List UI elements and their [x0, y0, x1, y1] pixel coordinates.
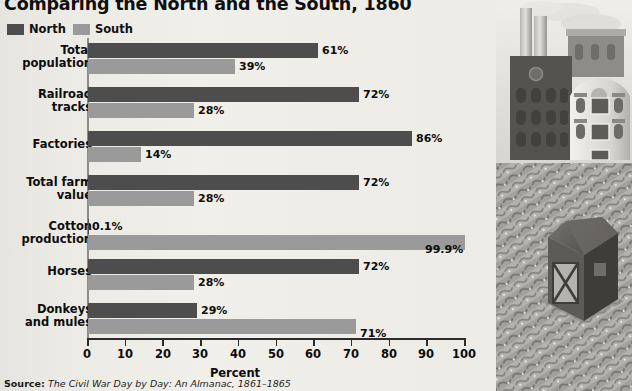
source-title: The Civil War Day by Day: An Almanac, 18…: [48, 378, 291, 389]
x-tick-60: [313, 340, 315, 346]
chart-figure: Comparing the North and the South, 1860 …: [0, 0, 632, 391]
category-label-line: population: [0, 57, 92, 70]
category-label-railroad-tracks: Railroad tracks: [0, 88, 92, 113]
bar-south-horses: [88, 275, 194, 290]
category-label-total-population: Total population: [0, 44, 92, 69]
bar-north-factories: [88, 131, 412, 146]
chart-legend: North South: [7, 22, 133, 36]
bar-north-total-population: [88, 43, 318, 58]
bar-value-north-horses: 72%: [363, 260, 389, 273]
x-tick-50: [276, 340, 278, 346]
source-note: Source: The Civil War Day by Day: An Alm…: [4, 378, 291, 389]
bar-north-horses: [88, 259, 359, 274]
x-tick-label-60: 60: [305, 347, 321, 361]
bar-value-north-donkeys-and-mules: 29%: [201, 304, 227, 317]
legend-label-north: North: [29, 22, 66, 36]
bar-south-total-farm-value: [88, 191, 194, 206]
x-tick-40: [238, 340, 240, 346]
chart-panel: Comparing the North and the South, 1860 …: [0, 0, 496, 391]
category-label-line: production: [0, 233, 92, 246]
x-tick-label-40: 40: [230, 347, 246, 361]
category-label-line: tracks: [0, 101, 92, 114]
industrial-factory-city-illustration: [496, 0, 632, 160]
bar-north-railroad-tracks: [88, 87, 359, 102]
x-tick-label-100: 100: [452, 347, 476, 361]
bar-south-factories: [88, 147, 141, 162]
bar-south-cotton-production: [88, 235, 465, 250]
legend-swatch-north-icon: [7, 24, 24, 35]
category-label-line: Cotton: [0, 220, 92, 233]
x-tick-90: [426, 340, 428, 346]
category-label-horses: Horses: [0, 265, 92, 278]
factory-city-icon: [496, 0, 632, 160]
category-label-cotton-production: Cotton production: [0, 220, 92, 245]
bar-value-south-horses: 28%: [198, 276, 224, 289]
bar-value-north-total-population: 61%: [322, 44, 348, 57]
bar-value-south-cotton-production: 99.9%: [425, 243, 463, 256]
category-label-donkeys-and-mules: Donkeys and mules: [0, 303, 92, 328]
x-tick-70: [351, 340, 353, 346]
x-tick-100: [464, 340, 466, 346]
category-label-line: Total: [0, 44, 92, 57]
legend-item-north: North: [7, 22, 66, 36]
chart-title: Comparing the North and the South, 1860: [4, 0, 411, 14]
illustration-column: [496, 0, 632, 391]
x-tick-20: [162, 340, 164, 346]
x-tick-0: [87, 340, 89, 346]
x-tick-label-30: 30: [192, 347, 208, 361]
bar-value-south-total-farm-value: 28%: [198, 192, 224, 205]
bar-value-north-total-farm-value: 72%: [363, 176, 389, 189]
x-tick-30: [200, 340, 202, 346]
bar-value-south-total-population: 39%: [239, 60, 265, 73]
category-label-line: Horses: [0, 265, 92, 278]
bar-value-north-railroad-tracks: 72%: [363, 88, 389, 101]
bar-value-north-factories: 86%: [416, 132, 442, 145]
legend-swatch-south-icon: [73, 24, 90, 35]
category-label-total-farm-value: Total farm value: [0, 176, 92, 201]
farm-barn-cotton-field-illustration: [496, 163, 632, 391]
legend-label-south: South: [95, 22, 133, 36]
category-label-factories: Factories: [0, 138, 92, 151]
bar-north-total-farm-value: [88, 175, 359, 190]
bar-value-south-factories: 14%: [145, 148, 171, 161]
bar-value-south-railroad-tracks: 28%: [198, 104, 224, 117]
category-label-line: value: [0, 189, 92, 202]
legend-item-south: South: [73, 22, 133, 36]
x-tick-label-80: 80: [381, 347, 397, 361]
bar-north-cotton-production: [88, 219, 89, 234]
x-tick-80: [389, 340, 391, 346]
bar-south-donkeys-and-mules: [88, 319, 356, 334]
category-label-line: and mules: [0, 316, 92, 329]
bar-south-total-population: [88, 59, 235, 74]
barn-cotton-field-icon: [496, 163, 632, 391]
bar-south-railroad-tracks: [88, 103, 194, 118]
source-prefix: Source:: [4, 378, 48, 389]
bar-value-north-cotton-production: 0.1%: [92, 220, 123, 233]
x-tick-label-90: 90: [418, 347, 434, 361]
x-tick-10: [125, 340, 127, 346]
x-tick-label-70: 70: [343, 347, 359, 361]
x-tick-label-20: 20: [155, 347, 171, 361]
x-tick-label-0: 0: [83, 347, 91, 361]
category-label-line: Railroad: [0, 88, 92, 101]
x-tick-label-10: 10: [117, 347, 133, 361]
bar-north-donkeys-and-mules: [88, 303, 197, 318]
category-label-line: Donkeys: [0, 303, 92, 316]
x-tick-label-50: 50: [268, 347, 284, 361]
category-label-line: Total farm: [0, 176, 92, 189]
category-label-line: Factories: [0, 138, 92, 151]
